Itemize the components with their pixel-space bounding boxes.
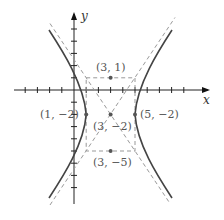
hyperbola-graph: x y (3, 1) (1, −2) (3, −2) xyxy=(0,0,224,220)
co-vertex-bottom-point xyxy=(109,149,113,153)
vertex-left-point xyxy=(84,112,88,116)
co-vertex-top-point xyxy=(109,76,113,80)
vertex-left-label: (1, −2) xyxy=(40,108,79,121)
x-axis-label: x xyxy=(203,93,210,107)
center-label: (3, −2) xyxy=(93,120,132,133)
vertex-right-label: (5, −2) xyxy=(140,108,179,121)
co-vertex-bottom-label: (3, −5) xyxy=(93,156,132,169)
center-point xyxy=(109,112,113,116)
y-axis-label: y xyxy=(80,9,88,23)
x-axis xyxy=(14,87,208,93)
vertex-right-point xyxy=(133,112,137,116)
co-vertex-top-label: (3, 1) xyxy=(96,61,126,74)
